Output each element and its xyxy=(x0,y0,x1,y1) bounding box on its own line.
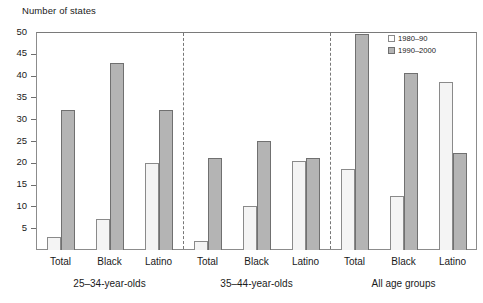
bar xyxy=(306,158,320,250)
y-axis-tick-label: 30 xyxy=(16,113,27,125)
bar xyxy=(145,163,159,250)
y-axis-tick-mark xyxy=(31,206,36,207)
legend-item: 1990–2000 xyxy=(388,45,436,56)
bar xyxy=(453,153,467,250)
legend: 1980–90 1990–2000 xyxy=(388,33,436,57)
y-axis-tick-mark xyxy=(31,119,36,120)
y-axis-tick-mark xyxy=(31,228,36,229)
bar xyxy=(404,73,418,250)
y-axis-tick: 40 xyxy=(0,76,36,77)
y-axis-tick-mark xyxy=(31,185,36,186)
bar xyxy=(257,141,271,250)
y-axis-tick-label: 40 xyxy=(16,69,27,81)
panel-label: 35–44-year-olds xyxy=(220,278,292,289)
bar xyxy=(390,196,404,250)
panel-label: 25–34-year-olds xyxy=(73,278,145,289)
category-label: Total xyxy=(197,256,218,267)
y-axis-tick: 20 xyxy=(0,163,36,164)
y-axis-tick-mark xyxy=(31,141,36,142)
bar xyxy=(61,110,75,250)
y-axis-tick: 25 xyxy=(0,141,36,142)
bar xyxy=(341,169,355,250)
bar xyxy=(159,110,173,250)
category-label: Black xyxy=(391,256,415,267)
bar xyxy=(96,219,110,250)
y-axis-tick-label: 50 xyxy=(16,26,27,38)
panel-separator xyxy=(183,33,184,249)
legend-item: 1980–90 xyxy=(388,33,436,44)
y-axis-tick-label: 20 xyxy=(16,156,27,168)
y-axis-tick: 30 xyxy=(0,119,36,120)
y-axis-title: Number of states xyxy=(22,5,96,16)
y-axis-tick-label: 15 xyxy=(16,178,27,190)
y-axis-tick-label: 5 xyxy=(22,222,27,234)
category-label: Black xyxy=(244,256,268,267)
legend-label: 1980–90 xyxy=(398,33,428,44)
legend-swatch-icon xyxy=(388,35,395,42)
y-axis-tick: 50 xyxy=(0,32,36,33)
legend-label: 1990–2000 xyxy=(398,45,436,56)
bar xyxy=(194,241,208,250)
bar xyxy=(208,158,222,250)
category-label: Total xyxy=(50,256,71,267)
bar xyxy=(355,34,369,250)
y-axis-tick-mark xyxy=(31,97,36,98)
panel-label: All age groups xyxy=(372,278,436,289)
y-axis-tick-label: 25 xyxy=(16,135,27,147)
bar xyxy=(110,63,124,250)
category-label: Latino xyxy=(439,256,466,267)
y-axis-tick: 10 xyxy=(0,206,36,207)
legend-swatch-icon xyxy=(388,47,395,54)
bar xyxy=(439,82,453,250)
category-label: Latino xyxy=(145,256,172,267)
panel-separator xyxy=(330,33,331,249)
y-axis-tick: 15 xyxy=(0,185,36,186)
y-axis-tick-label: 10 xyxy=(16,200,27,212)
category-label: Total xyxy=(344,256,365,267)
category-label: Latino xyxy=(292,256,319,267)
bar-chart: Number of states 5101520253035404550 Tot… xyxy=(0,0,483,303)
bar xyxy=(243,206,257,250)
y-axis-tick-label: 45 xyxy=(16,47,27,59)
y-axis-tick: 45 xyxy=(0,54,36,55)
bar xyxy=(292,161,306,250)
bar xyxy=(47,237,61,250)
category-label: Black xyxy=(97,256,121,267)
y-axis-tick: 35 xyxy=(0,97,36,98)
y-axis-tick-mark xyxy=(31,76,36,77)
y-axis-tick: 5 xyxy=(0,228,36,229)
y-axis-tick-mark xyxy=(31,163,36,164)
y-axis-tick-mark xyxy=(31,54,36,55)
y-axis-tick-label: 35 xyxy=(16,91,27,103)
